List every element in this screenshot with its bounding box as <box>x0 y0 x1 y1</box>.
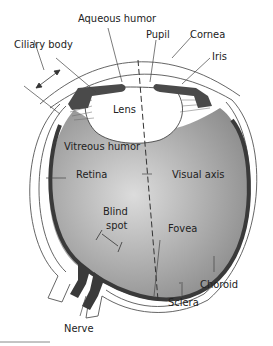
label-cornea: Cornea <box>190 28 225 41</box>
label-nerve: Nerve <box>64 322 94 335</box>
label-aqueous-humor: Aqueous humor <box>78 12 157 25</box>
eye-diagram: Aqueous humor Pupil Cornea Ciliary body … <box>0 0 273 346</box>
label-fovea: Fovea <box>168 222 197 235</box>
label-iris: Iris <box>212 50 227 63</box>
label-lens: Lens <box>113 103 136 116</box>
label-blind: Blind <box>103 205 128 218</box>
label-spot: spot <box>106 219 127 232</box>
label-retina: Retina <box>76 168 107 181</box>
label-choroid: Choroid <box>200 278 238 291</box>
label-visual-axis: Visual axis <box>172 168 225 181</box>
label-vitreous-humor: Vitreous humor <box>64 140 141 153</box>
label-sclera: Sclera <box>168 296 199 309</box>
label-ciliary-body: Ciliary body <box>14 38 73 51</box>
label-pupil: Pupil <box>146 28 170 41</box>
ciliary-body-arrow <box>36 70 60 88</box>
